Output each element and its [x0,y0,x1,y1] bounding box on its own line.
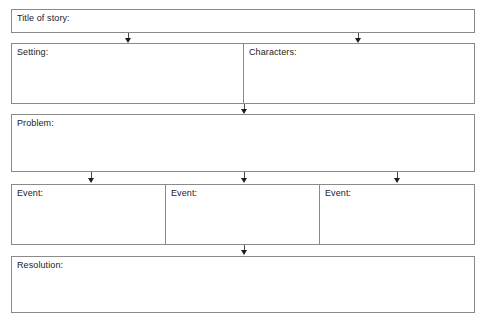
title-of-story-label: Title of story: [17,13,70,24]
resolution-box[interactable]: Resolution: [11,256,475,313]
connector-problem-to-event2-arrowhead [241,178,247,183]
problem-label: Problem: [17,118,54,129]
event3-box[interactable] [319,185,474,244]
problem-box[interactable]: Problem: [11,114,475,172]
connector-events-to-resolution-arrowhead [241,250,247,255]
connector-problem-to-event3-arrowhead [394,178,400,183]
connector-problem-to-event1-arrowhead [88,178,94,183]
event1-box[interactable] [12,185,165,244]
characters-box[interactable] [243,44,474,103]
title-of-story-box[interactable]: Title of story: [11,9,475,33]
setting-box[interactable] [12,44,243,103]
event2-box[interactable] [165,185,319,244]
resolution-label: Resolution: [17,260,63,271]
story-map-organizer: Title of story: Setting: Characters: Pro… [0,0,488,326]
